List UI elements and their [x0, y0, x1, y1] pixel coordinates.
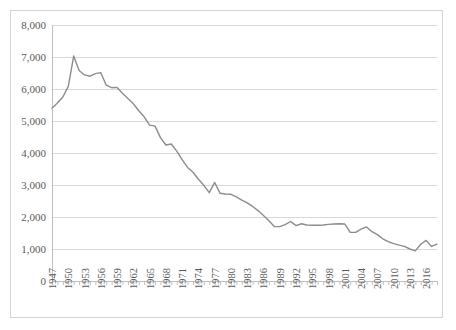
chart-plot-frame: 01,0002,0003,0004,0005,0006,0007,0008,00…: [10, 10, 443, 318]
x-tick-label: 1989: [275, 268, 286, 289]
y-tick-label: 1,000: [21, 243, 46, 255]
x-tick-label: 2010: [389, 268, 400, 289]
y-tick-label: 4,000: [21, 147, 46, 159]
x-tick-label: 1953: [80, 268, 91, 289]
x-tick-label: 1962: [128, 268, 139, 289]
x-tick-label: 1995: [307, 268, 318, 289]
y-tick-label: 2,000: [21, 211, 46, 223]
x-tick-label: 2013: [405, 268, 416, 289]
y-tick-label: 3,000: [21, 179, 46, 191]
y-tick-label: 0: [41, 275, 47, 287]
y-tick-label: 7,000: [21, 51, 46, 63]
y-tick-label: 6,000: [21, 83, 46, 95]
x-tick-label: 1968: [161, 268, 172, 289]
y-gridlines: [52, 26, 437, 282]
x-tick-label: 1983: [242, 268, 253, 289]
x-tick-label: 2004: [356, 267, 367, 289]
y-axis-labels: 01,0002,0003,0004,0005,0006,0007,0008,00…: [21, 19, 46, 287]
x-tick-label: 2007: [372, 268, 383, 289]
x-tick-label: 1947: [47, 268, 58, 289]
x-tick-label: 1998: [324, 268, 335, 289]
x-tick-label: 1992: [291, 268, 302, 289]
x-axis-labels: 1947195019531956195919621965196819711974…: [47, 267, 432, 289]
chart-figure: 01,0002,0003,0004,0005,0006,0007,0008,00…: [0, 0, 456, 330]
x-tick-label: 2016: [421, 268, 432, 289]
y-tick-label: 5,000: [21, 115, 46, 127]
y-tick-label: 8,000: [21, 19, 46, 31]
x-tick-label: 1959: [112, 268, 123, 289]
x-tick-label: 2001: [340, 268, 351, 289]
x-tick-label: 1980: [226, 268, 237, 289]
line-chart: 01,0002,0003,0004,0005,0006,0007,0008,00…: [11, 11, 442, 317]
x-tick-label: 1971: [177, 268, 188, 289]
x-tick-label: 1956: [96, 268, 107, 289]
x-tick-label: 1986: [258, 268, 269, 289]
x-tick-label: 1974: [193, 267, 204, 289]
x-tick-label: 1977: [210, 268, 221, 289]
x-tick-label: 1950: [63, 268, 74, 289]
x-tick-label: 1965: [145, 268, 156, 289]
